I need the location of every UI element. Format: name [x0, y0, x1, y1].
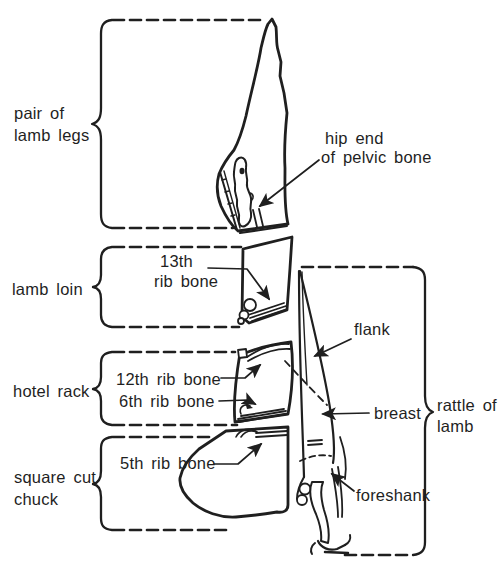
legs-brace	[92, 20, 112, 228]
lamb-cuts-diagram: pair of lamb legs lamb loin hotel rack s…	[0, 0, 504, 566]
rack-corner-notch	[238, 349, 247, 358]
flank-label: flank	[354, 319, 390, 340]
rib13-label-line2: rib bone	[154, 271, 218, 292]
flank-arrow	[315, 339, 351, 356]
loin-brace	[93, 247, 112, 327]
breast-bottom-dashed	[300, 455, 331, 461]
legs-label-line1: pair of	[14, 102, 89, 124]
loin-label: lamb loin	[12, 279, 83, 300]
chuck-label: square cut chuck	[14, 466, 96, 510]
pelvic-bone-hole	[240, 168, 245, 174]
hip-end-label-line2: of pelvic bone	[321, 147, 432, 168]
hip-end-label-line1: hip end	[325, 128, 384, 149]
shank-knuckle-1	[300, 484, 311, 495]
foreshank-label: foreshank	[356, 485, 430, 506]
legs-label: pair of lamb legs	[14, 102, 89, 146]
legs-cut-drawing	[217, 19, 288, 233]
breast-label: breast	[374, 403, 421, 424]
rack-brace	[93, 352, 112, 425]
rib12-label: 12th rib bone	[116, 369, 221, 390]
section-chuck	[93, 427, 322, 530]
shank-knuckle-2	[297, 495, 307, 505]
chuck-side-tick	[308, 440, 322, 445]
rack-label: hotel rack	[13, 381, 90, 402]
rattle-label: rattle of lamb	[437, 395, 497, 437]
rack-cut-drawing	[234, 342, 292, 422]
shank-bone	[310, 482, 329, 543]
rattle-label-line1: rattle of	[437, 395, 497, 416]
rib13-label-line1: 13th	[160, 251, 193, 272]
shank-foot-bar	[325, 552, 348, 553]
rib6-label: 6th rib bone	[119, 391, 215, 412]
rib5-label: 5th rib bone	[120, 453, 216, 474]
legs-label-line2: lamb legs	[14, 124, 89, 146]
chuck-label-line1: square cut	[14, 466, 96, 488]
breast-arrow	[323, 413, 369, 414]
shank-upper-curve	[340, 437, 346, 479]
chuck-label-line2: chuck	[14, 488, 96, 510]
breast-right-curve	[300, 271, 334, 463]
loin-rib-end-3	[238, 318, 244, 324]
shank-foot-hook-right	[345, 535, 350, 545]
section-legs	[92, 19, 319, 233]
shank-foot-hook-left	[311, 543, 315, 554]
loin-cut-drawing	[238, 237, 292, 324]
rattle-label-line2: lamb	[437, 416, 497, 437]
loin-rib-end-1	[244, 299, 256, 311]
